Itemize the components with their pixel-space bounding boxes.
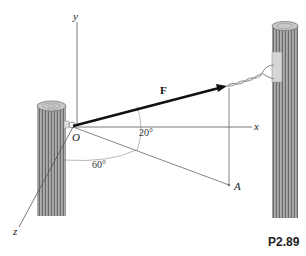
force-vector — [73, 84, 227, 126]
figure-caption: P2.89 — [268, 236, 299, 248]
z-axis-label: z — [13, 226, 17, 237]
angle-60-label: 60° — [92, 160, 106, 170]
force-label: F — [160, 85, 167, 96]
point-a-dot — [228, 184, 231, 187]
left-post — [37, 101, 66, 216]
cable — [227, 74, 262, 86]
diagram-canvas — [0, 0, 306, 256]
origin-label: O — [72, 132, 80, 143]
left-bracket — [64, 121, 69, 128]
right-post — [272, 22, 298, 219]
point-a-label: A — [234, 181, 241, 192]
angle-20-label: 20° — [139, 128, 153, 138]
y-axis-label: y — [73, 11, 78, 22]
x-axis-label: x — [254, 121, 259, 132]
